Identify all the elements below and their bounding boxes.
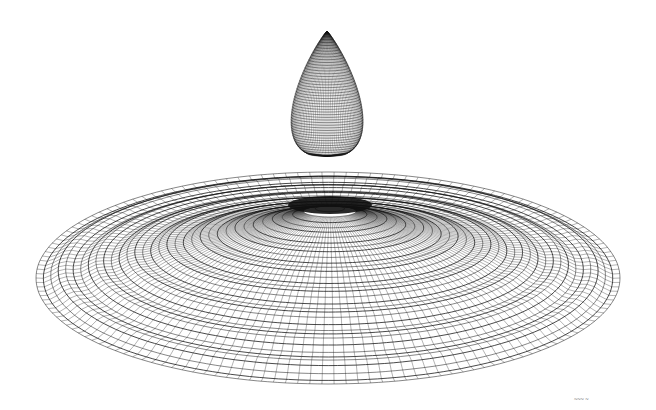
wireframe-artwork — [0, 0, 656, 410]
artist-signature: ~~~ ~ — [574, 396, 588, 402]
water-drop — [291, 31, 363, 156]
ripple-surface — [36, 172, 620, 384]
